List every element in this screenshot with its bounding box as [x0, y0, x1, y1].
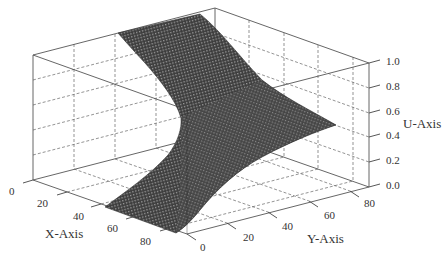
x-axis-label: X-Axis [45, 226, 83, 241]
u-tick-1.0: 1.0 [386, 55, 400, 67]
surface-mesh [105, 14, 336, 234]
x-tick-40: 40 [73, 210, 85, 222]
u-tick-0.2: 0.2 [386, 154, 400, 166]
y-axis-label: Y-Axis [307, 231, 344, 246]
u-tick-0.0: 0.0 [386, 179, 400, 191]
y-tick-0: 0 [200, 241, 206, 253]
u-axis-label: U-Axis [403, 116, 441, 131]
y-tick-60: 60 [324, 209, 336, 221]
u-tick-0.4: 0.4 [386, 129, 400, 141]
u-tick-0.6: 0.6 [386, 105, 400, 117]
x-tick-20: 20 [37, 197, 49, 209]
y-axis: 0 20 40 60 80 Y-Axis [187, 191, 376, 253]
y-tick-40: 40 [282, 220, 294, 232]
surface-plot: 0 20 40 60 80 X-Axis 0 20 40 60 80 Y-Axi… [0, 0, 445, 256]
y-tick-80: 80 [364, 197, 376, 209]
y-tick-20: 20 [243, 231, 255, 243]
u-tick-0.8: 0.8 [386, 80, 400, 92]
x-tick-80: 80 [140, 235, 152, 247]
u-axis: 0.0 0.2 0.4 0.6 0.8 1.0 U-Axis [369, 55, 441, 191]
x-tick-60: 60 [107, 222, 119, 234]
x-tick-0: 0 [9, 185, 15, 197]
